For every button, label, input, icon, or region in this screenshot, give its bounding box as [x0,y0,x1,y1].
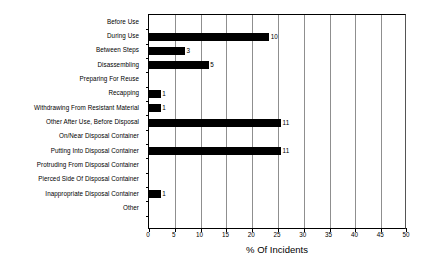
y-axis-category-label: During Use [0,32,139,39]
y-axis-tick [146,158,149,159]
bar-value-label: 11 [283,147,290,155]
y-axis-tick [146,29,149,30]
y-axis-category-label: Protruding From Disposal Container [0,161,139,168]
x-axis-tick-label: 45 [377,231,384,239]
y-axis-category-label: Before Use [0,18,139,25]
bar-value-label: 11 [283,119,290,127]
bar-value-label: 1 [162,90,166,98]
gridline [330,15,331,228]
y-axis-category-label: On/Near Disposal Container [0,132,139,139]
y-axis-category-label: Inappropriate Disposal Container [0,190,139,197]
bar-value-label: 1 [162,190,166,198]
y-axis-tick [146,201,149,202]
x-axis-tick-label: 25 [273,231,280,239]
plot-area: 10351111111 [148,14,406,229]
y-axis-tick [146,72,149,73]
x-axis-tick-label: 5 [172,231,176,239]
x-axis-title: % Of Incidents [148,244,406,256]
x-axis-tick-labels: 05101520253035404550 [148,231,406,241]
y-axis-tick [146,87,149,88]
bar [149,33,269,41]
gridline [304,15,305,228]
bar [149,119,281,127]
y-axis-tick [146,44,149,45]
x-axis-tick-label: 0 [146,231,150,239]
x-axis-tick-label: 50 [402,231,409,239]
bar [149,147,281,155]
bar-value-label: 5 [210,61,214,69]
bar [149,104,161,112]
bar-chart: Before UseDuring UseBetween StepsDisasse… [0,0,426,269]
y-axis-category-label: Preparing For Reuse [0,75,139,82]
bar [149,47,185,55]
gridline [381,15,382,228]
y-axis-tick [146,216,149,217]
bar-value-label: 10 [271,33,278,41]
x-axis-tick-label: 20 [248,231,255,239]
x-axis-tick-label: 30 [299,231,306,239]
gridline [355,15,356,228]
y-axis-tick [146,173,149,174]
y-axis-tick [146,130,149,131]
y-axis-category-label: Between Steps [0,46,139,53]
y-axis-tick [146,58,149,59]
y-axis-category-label: Withdrawing From Resistant Material [0,104,139,111]
bar [149,190,161,198]
y-axis-category-label: Other [0,204,139,211]
y-axis-category-label: Recapping [0,89,139,96]
y-axis-tick [146,187,149,188]
y-axis-category-label: Disassembling [0,61,139,68]
x-axis-tick-label: 35 [325,231,332,239]
y-axis-category-labels: Before UseDuring UseBetween StepsDisasse… [0,14,143,229]
y-axis-category-label: Pierced Side Of Disposal Container [0,175,139,182]
bar [149,90,161,98]
y-axis-category-label: Putting Into Disposal Container [0,147,139,154]
y-axis-tick [146,144,149,145]
x-axis-tick-label: 15 [222,231,229,239]
bar [149,61,209,69]
y-axis-category-label: Other After Use, Before Disposal [0,118,139,125]
y-axis-tick [146,115,149,116]
x-axis-tick-label: 40 [351,231,358,239]
x-axis-tick-label: 10 [196,231,203,239]
y-axis-tick [146,101,149,102]
bar-value-label: 3 [187,47,191,55]
bar-value-label: 1 [162,104,166,112]
